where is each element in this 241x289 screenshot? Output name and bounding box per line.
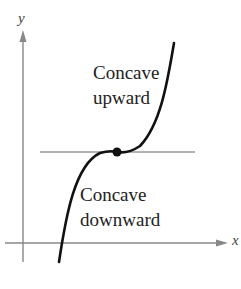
concave-upward-label-line2: upward [93, 88, 150, 108]
y-axis-label: y [18, 10, 25, 27]
concave-downward-label-line2: downward [80, 210, 160, 230]
inflection-point [113, 148, 122, 157]
x-axis [5, 240, 228, 247]
concave-upward-label-line1: Concave [93, 63, 159, 83]
diagram-canvas [0, 0, 241, 289]
x-axis-label: x [232, 232, 239, 249]
y-axis [20, 30, 27, 262]
concave-downward-label-line1: Concave [80, 185, 146, 205]
